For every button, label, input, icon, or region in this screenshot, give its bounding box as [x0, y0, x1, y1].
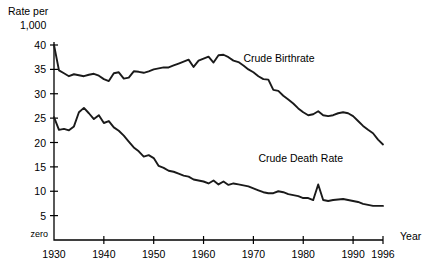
y-tick-label: 35: [34, 63, 46, 75]
y-axis-title-line1: Rate per: [8, 5, 49, 17]
x-tick-label: 1980: [292, 248, 316, 260]
y-tick-label: 25: [34, 112, 46, 124]
y-tick-label: 40: [34, 39, 46, 51]
x-tick-label: 1930: [42, 248, 66, 260]
y-tick-label: 20: [34, 137, 46, 149]
chart-figure: Rate per 1,000 Year 510152025303540 1930…: [0, 0, 438, 272]
x-tick-label: 1960: [192, 248, 216, 260]
y-tick-label: 10: [34, 185, 46, 197]
y-axis-title-line2: 1,000: [20, 19, 46, 31]
y-tick-label: 5: [40, 210, 46, 222]
x-axis-title: Year: [400, 230, 422, 242]
line-chart-svg: Rate per 1,000 Year 510152025303540 1930…: [0, 0, 438, 272]
x-tick-label: 1990: [341, 248, 365, 260]
x-tick-label: 1940: [92, 248, 116, 260]
series-annotations: Crude BirthrateCrude Death Rate: [243, 52, 343, 164]
y-axis-zero-label: zero: [30, 229, 48, 239]
x-tick-label: 1996: [371, 248, 395, 260]
x-tick-label: 1970: [242, 248, 266, 260]
series-line-crude-birthrate: [54, 45, 383, 144]
series-annotation-label: Crude Death Rate: [258, 152, 343, 164]
y-tick-label: 15: [34, 161, 46, 173]
axis-lines: [54, 42, 383, 240]
x-tick-label: 1950: [142, 248, 166, 260]
y-tick-label: 30: [34, 88, 46, 100]
series-annotation-label: Crude Birthrate: [243, 52, 314, 64]
